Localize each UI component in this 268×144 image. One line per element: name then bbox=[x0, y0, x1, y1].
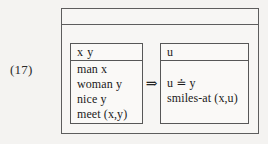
outer-drs-universe bbox=[62, 9, 258, 25]
condition-line: smiles-at (x,u) bbox=[167, 91, 248, 106]
antecedent-conditions: man x woman y nice y meet (x,y) bbox=[71, 61, 142, 123]
antecedent-drs-box: x y man x woman y nice y meet (x,y) bbox=[70, 43, 143, 124]
duplex-condition: x y man x woman y nice y meet (x,y) ⇒ u … bbox=[62, 25, 258, 133]
double-right-arrow-icon: ⇒ bbox=[143, 43, 160, 124]
condition-line: u ≐ y bbox=[167, 76, 248, 91]
condition-line: nice y bbox=[77, 92, 142, 107]
drs-figure: (17) x y man x woman y nice y meet (x,y)… bbox=[0, 0, 268, 144]
consequent-universe: u bbox=[161, 44, 248, 61]
condition-line: meet (x,y) bbox=[77, 107, 142, 122]
outer-drs-box: x y man x woman y nice y meet (x,y) ⇒ u … bbox=[61, 8, 259, 134]
condition-line: man x bbox=[77, 62, 142, 77]
antecedent-universe: x y bbox=[71, 44, 142, 61]
consequent-conditions: u ≐ y smiles-at (x,u) bbox=[161, 61, 248, 123]
condition-line: woman y bbox=[77, 77, 142, 92]
consequent-drs-box: u u ≐ y smiles-at (x,u) bbox=[160, 43, 249, 124]
example-number-label: (17) bbox=[10, 62, 32, 78]
